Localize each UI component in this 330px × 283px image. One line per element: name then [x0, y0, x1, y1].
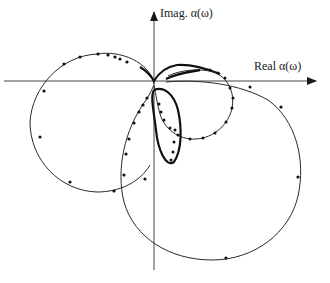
small-circle: [154, 70, 233, 139]
imaginary-axis-label: Imag. α(ω): [160, 6, 213, 21]
left-circle: [30, 53, 220, 192]
diagram-svg: [0, 0, 330, 283]
real-axis-label: Real α(ω): [254, 59, 301, 74]
polar-diagram: Imag. α(ω) Real α(ω): [0, 0, 330, 283]
large-circle: [121, 81, 301, 260]
data-points: [38, 52, 299, 259]
